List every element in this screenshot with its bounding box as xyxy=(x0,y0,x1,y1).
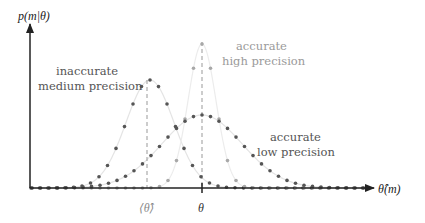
data-point xyxy=(165,102,169,106)
data-point xyxy=(123,125,127,129)
data-point xyxy=(200,113,204,117)
data-point xyxy=(234,179,238,183)
data-point xyxy=(217,120,221,124)
data-point xyxy=(166,179,170,183)
data-point xyxy=(302,183,306,187)
x-axis-label: θ̂(m) xyxy=(378,182,401,196)
data-point xyxy=(209,115,213,119)
data-point xyxy=(157,85,161,89)
data-point xyxy=(234,135,238,139)
medium-precision-annotation-line2: medium precision xyxy=(38,79,143,93)
data-point xyxy=(208,181,212,185)
mean-estimate-label: ⟨θ̂⟩ xyxy=(139,201,155,215)
data-point xyxy=(106,164,110,168)
low-precision-annotation-line1: accurate xyxy=(270,130,321,144)
high-precision-annotation-line1: accurate xyxy=(236,39,287,53)
data-point xyxy=(199,175,203,179)
data-point xyxy=(89,181,93,185)
data-point xyxy=(226,127,230,131)
data-point xyxy=(114,147,118,151)
data-point xyxy=(226,159,230,163)
data-point xyxy=(107,181,111,185)
high-precision-annotation-line2: high precision xyxy=(222,54,306,68)
data-point xyxy=(149,154,153,158)
data-point xyxy=(175,127,179,131)
data-point xyxy=(124,175,128,179)
data-point xyxy=(209,66,213,70)
data-point xyxy=(182,147,186,151)
data-point xyxy=(191,164,195,168)
data-point xyxy=(294,181,298,185)
data-point xyxy=(277,175,281,179)
data-point xyxy=(243,145,247,149)
low-precision-annotation-line2: low precision xyxy=(257,145,335,159)
data-point xyxy=(166,135,170,139)
data-point xyxy=(148,78,152,82)
data-point xyxy=(115,179,119,183)
data-point xyxy=(192,115,196,119)
y-axis-label: p(m|θ) xyxy=(17,9,50,23)
data-point xyxy=(131,102,135,106)
data-point xyxy=(260,162,264,166)
data-point xyxy=(98,183,102,187)
data-point xyxy=(183,120,187,124)
data-point xyxy=(141,162,145,166)
data-point xyxy=(175,159,179,163)
data-point xyxy=(251,154,255,158)
true-value-label: θ xyxy=(198,201,204,215)
data-point xyxy=(268,169,272,173)
data-point xyxy=(285,179,289,183)
precision-accuracy-diagram: p(m|θ) θ̂(m) ⟨θ̂⟩ θ inaccurate medium pr… xyxy=(0,0,425,223)
data-point xyxy=(97,175,101,179)
data-point xyxy=(158,145,162,149)
medium-precision-annotation-line1: inaccurate xyxy=(56,64,118,78)
data-point xyxy=(192,66,196,70)
data-point xyxy=(132,169,136,173)
data-point xyxy=(200,42,204,46)
